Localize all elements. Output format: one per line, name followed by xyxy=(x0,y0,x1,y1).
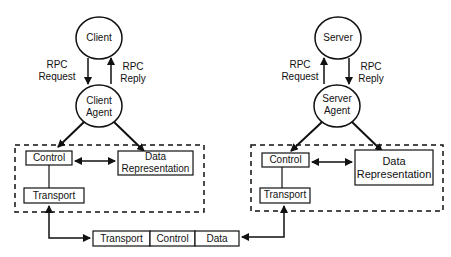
client-transport-label: Transport xyxy=(24,190,84,202)
client-data-rep-line1: Data xyxy=(118,151,193,163)
server-agent-to-control-arrow xyxy=(291,122,322,151)
server-data-rep-label: Data Representation xyxy=(355,155,433,181)
server-rpc-request-label: RPC Request xyxy=(280,59,320,83)
diagram-canvas xyxy=(0,0,451,257)
client-agent-line1: Client xyxy=(76,95,122,107)
message-data-label: Data xyxy=(195,233,239,245)
server-agent-line2: Agent xyxy=(314,105,360,117)
server-control-label: Control xyxy=(262,154,309,166)
client-data-rep-line2: Representation xyxy=(118,163,193,175)
client-rpc-request-label: RPC Request xyxy=(34,59,80,83)
server-rpc-request-line1: RPC xyxy=(280,59,320,71)
client-agent-label: Client Agent xyxy=(76,95,122,119)
client-agent-line2: Agent xyxy=(76,107,122,119)
server-rpc-reply-label: RPC Reply xyxy=(356,61,386,85)
client-rpc-reply-line1: RPC xyxy=(118,61,148,73)
message-control-label: Control xyxy=(150,233,195,245)
server-rpc-reply-line1: RPC xyxy=(356,61,386,73)
server-process-label: Server xyxy=(315,32,361,44)
client-agent-to-control-arrow xyxy=(58,122,84,147)
server-data-rep-line2: Representation xyxy=(355,168,433,181)
client-rpc-request-line1: RPC xyxy=(34,59,80,71)
server-data-rep-line1: Data xyxy=(355,155,433,168)
server-rpc-request-line2: Request xyxy=(280,71,320,83)
server-agent-line1: Server xyxy=(314,93,360,105)
message-transport-label: Transport xyxy=(93,233,150,245)
client-rpc-reply-label: RPC Reply xyxy=(118,61,148,85)
client-control-label: Control xyxy=(26,152,72,164)
client-transport-message-connector xyxy=(49,206,90,238)
client-data-rep-label: Data Representation xyxy=(118,151,193,175)
client-process-label: Client xyxy=(76,32,122,44)
client-rpc-request-line2: Request xyxy=(34,71,80,83)
server-rpc-reply-line2: Reply xyxy=(356,73,386,85)
client-agent-to-data-arrow xyxy=(114,122,144,151)
client-rpc-reply-line2: Reply xyxy=(118,73,148,85)
server-agent-label: Server Agent xyxy=(314,93,360,117)
server-agent-to-data-arrow xyxy=(352,122,382,151)
server-transport-label: Transport xyxy=(260,189,310,201)
